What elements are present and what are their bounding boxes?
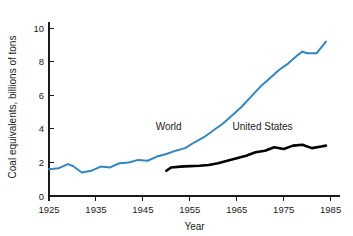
- x-tick-label: 1955: [179, 204, 200, 215]
- x-axis-ticks: 1925193519451955196519751985: [38, 196, 341, 215]
- line-chart-figure: 0246810 Coal equivalents, billions of to…: [0, 0, 353, 236]
- x-tick-label: 1975: [273, 204, 294, 215]
- x-tick-label: 1965: [226, 204, 247, 215]
- y-tick-label: 2: [39, 157, 44, 168]
- series-label-world: World: [156, 121, 182, 132]
- x-tick-label: 1935: [85, 204, 106, 215]
- y-axis-title: Coal equivalents, billions of tons: [7, 36, 18, 179]
- x-axis-title: Year: [184, 221, 205, 232]
- y-tick-label: 8: [39, 56, 44, 67]
- series-line-united-states: [166, 145, 326, 171]
- x-axis-group: 1925193519451955196519751985 Year: [38, 196, 341, 232]
- y-tick-label: 0: [39, 191, 44, 202]
- series-layer: [49, 42, 326, 173]
- y-axis-group: 0246810 Coal equivalents, billions of to…: [7, 22, 54, 201]
- y-tick-label: 10: [33, 23, 44, 34]
- x-tick-label: 1925: [38, 204, 59, 215]
- y-axis-ticks: 0246810: [33, 23, 54, 202]
- y-tick-label: 4: [39, 123, 44, 134]
- y-tick-label: 6: [39, 90, 44, 101]
- chart-container: 0246810 Coal equivalents, billions of to…: [0, 0, 353, 236]
- series-line-world: [49, 42, 326, 173]
- x-tick-label: 1985: [320, 204, 341, 215]
- x-tick-label: 1945: [132, 204, 153, 215]
- series-label-united-states: United States: [233, 121, 293, 132]
